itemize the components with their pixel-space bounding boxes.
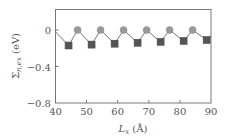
circle-marker: [166, 27, 173, 34]
circle-marker: [120, 27, 127, 34]
circle-marker: [189, 27, 196, 34]
square-marker: [65, 42, 72, 49]
x-axis-label: Lx (Å): [118, 123, 148, 136]
y-tick-label: −0.4: [27, 62, 51, 73]
x-tick-label: 90: [205, 106, 218, 117]
x-tick-label: 80: [174, 106, 187, 117]
chart: 405060708090 0−0.4−0.8 Lx (Å) Σn,ex (eV): [0, 0, 227, 139]
circle-marker: [74, 27, 81, 34]
x-tick-label: 70: [142, 106, 155, 117]
x-tick-label: 50: [80, 106, 93, 117]
square-marker: [203, 37, 210, 44]
circle-marker: [97, 27, 104, 34]
plot-frame: [56, 10, 212, 104]
data-markers: [65, 27, 210, 50]
square-marker: [134, 39, 141, 46]
square-marker: [180, 37, 187, 44]
square-marker: [88, 41, 95, 48]
square-marker: [111, 40, 118, 47]
y-tick-label: −0.8: [27, 98, 51, 109]
circle-marker: [143, 27, 150, 34]
y-axis-ticks: 0−0.4−0.8: [27, 25, 59, 109]
x-tick-label: 60: [111, 106, 124, 117]
y-axis-label: Σn,ex (eV): [10, 33, 23, 79]
square-marker: [157, 38, 164, 45]
y-tick-label: 0: [45, 25, 51, 36]
x-tick-label: 40: [49, 106, 62, 117]
